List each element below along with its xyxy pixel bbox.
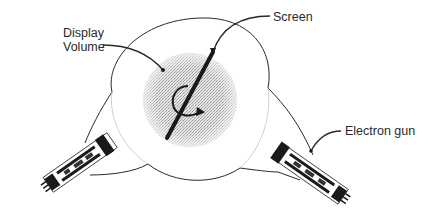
label-display-volume: Display Volume <box>63 26 105 54</box>
diagram-canvas: Display Volume Screen Electron gun <box>0 0 431 221</box>
label-electron-gun: Electron gun <box>345 124 415 138</box>
label-display-volume-line1: Display <box>63 26 105 40</box>
leader-screen <box>210 16 270 55</box>
label-display-volume-line2: Volume <box>63 40 105 54</box>
leader-electron-gun <box>309 131 341 153</box>
label-screen: Screen <box>273 10 313 24</box>
electron-gun-left <box>38 132 118 197</box>
